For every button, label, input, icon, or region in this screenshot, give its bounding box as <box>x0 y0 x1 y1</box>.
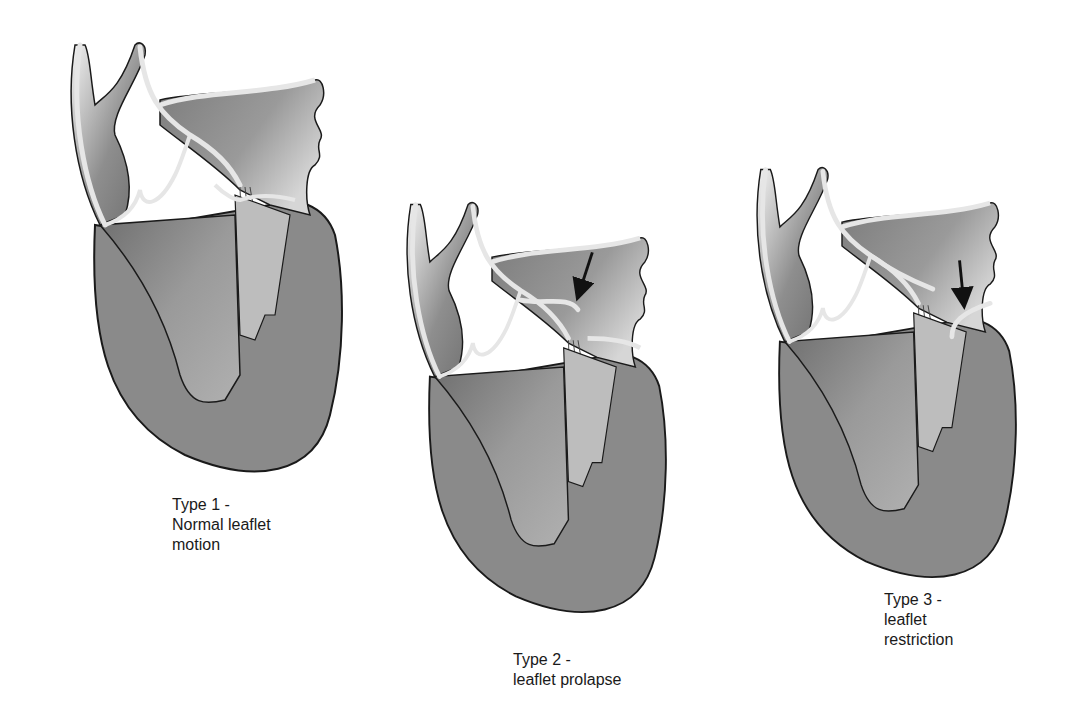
heart-illustration-type2 <box>385 195 685 625</box>
caption-line: Type 1 - <box>172 495 271 515</box>
caption-line: leaflet <box>884 610 953 630</box>
caption-line: restriction <box>884 630 953 650</box>
heart-illustration-type3 <box>735 160 1035 590</box>
caption-type3: Type 3 - leaflet restriction <box>884 590 953 650</box>
caption-line: motion <box>172 535 271 555</box>
caption-type1: Type 1 - Normal leaflet motion <box>172 495 271 555</box>
caption-line: Type 3 - <box>884 590 953 610</box>
caption-line: leaflet prolapse <box>513 670 622 690</box>
caption-line: Type 2 - <box>513 650 622 670</box>
heart-illustration-type1 <box>55 35 355 485</box>
caption-type2: Type 2 - leaflet prolapse <box>513 650 622 690</box>
caption-line: Normal leaflet <box>172 515 271 535</box>
